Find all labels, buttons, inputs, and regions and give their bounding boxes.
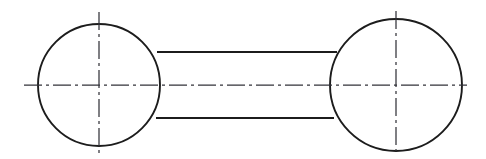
drawing-svg <box>0 0 486 159</box>
drawing-background <box>0 0 486 159</box>
technical-drawing-canvas <box>0 0 486 159</box>
